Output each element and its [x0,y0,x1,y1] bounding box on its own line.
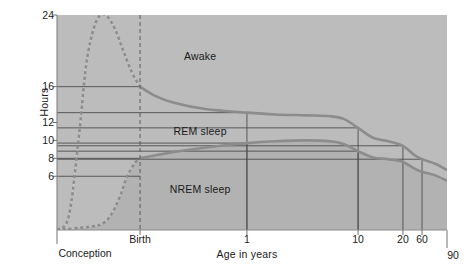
x-tick-label: 10 [352,234,364,245]
y-tick-label: 6 [26,171,54,181]
x-axis-title: Age in years [217,248,278,260]
region-label-awake: Awake [184,50,216,62]
chart-canvas [0,0,468,271]
sleep-across-lifespan-chart: Hours 2416121086 ConceptionBirth11020609… [0,0,468,271]
y-tick-label: 10 [26,135,54,145]
region-label-rem-sleep: REM sleep [174,125,227,137]
region-label-nrem-sleep: NREM sleep [170,183,231,195]
y-tick-label: 16 [26,81,54,91]
x-tick-label: Conception [58,248,111,259]
x-tick-label: 60 [416,234,428,245]
y-tick-label: 24 [26,10,54,20]
y-tick-labels: 2416121086 [18,0,54,271]
x-tick-label: 20 [397,234,409,245]
x-tick-label: 90 [447,250,459,261]
y-tick-label: 8 [26,153,54,163]
y-tick-label: 12 [26,117,54,127]
x-tick-label: Birth [129,234,151,245]
x-tick-marks [140,230,422,235]
x-tick-label: 1 [244,234,250,245]
